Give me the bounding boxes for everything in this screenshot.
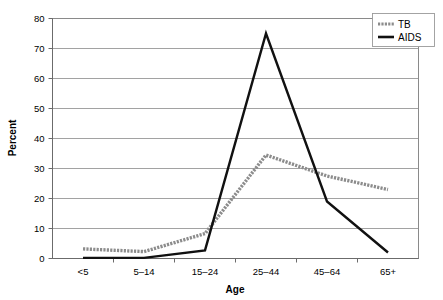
- y-tick-label: 60: [34, 73, 45, 84]
- series-line-aids: [83, 34, 388, 258]
- y-tick-label: 10: [34, 223, 45, 234]
- y-tick-label: 30: [34, 163, 45, 174]
- y-tick-label: 50: [34, 103, 45, 114]
- x-axis-title: Age: [226, 284, 245, 295]
- y-tick-label: 80: [34, 13, 45, 24]
- line-chart: 01020304050607080 <55–1415–2425–4445–646…: [0, 0, 443, 300]
- x-tick-label: 15–24: [192, 266, 218, 277]
- y-tick-label: 0: [39, 253, 44, 264]
- y-tick-label: 70: [34, 43, 45, 54]
- y-tick-label: 20: [34, 193, 45, 204]
- series-line-tb: [83, 155, 388, 252]
- data-series: [83, 34, 388, 258]
- x-tick-label: 25–44: [253, 266, 279, 277]
- chart-legend: TB AIDS: [373, 14, 435, 47]
- x-tick-label: 65+: [380, 266, 397, 277]
- chart-container: 01020304050607080 <55–1415–2425–4445–646…: [0, 0, 443, 300]
- y-axis-title: Percent: [7, 119, 18, 156]
- legend-label-tb: TB: [398, 19, 411, 30]
- y-axis-ticks: 01020304050607080: [34, 13, 53, 264]
- x-tick-label: <5: [78, 266, 89, 277]
- x-axis-ticks: <55–1415–2425–4445–6465+: [78, 259, 397, 277]
- x-tick-label: 45–64: [314, 266, 340, 277]
- legend-label-aids: AIDS: [398, 32, 422, 43]
- x-tick-label: 5–14: [133, 266, 154, 277]
- y-tick-label: 40: [34, 133, 45, 144]
